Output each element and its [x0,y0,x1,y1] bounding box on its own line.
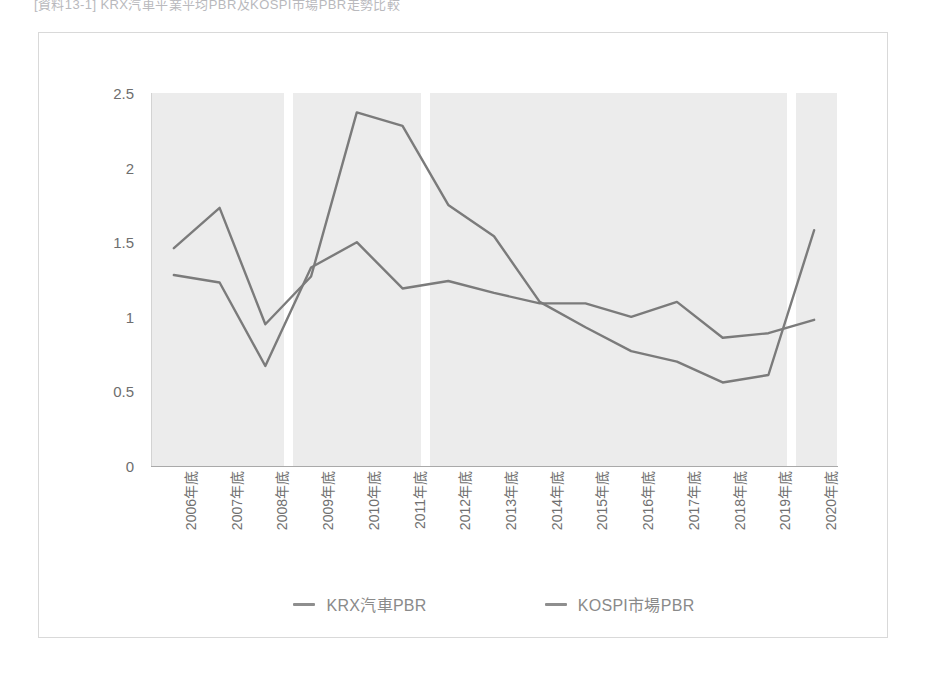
y-axis-tick-label: 0.5 [30,383,143,400]
series-line [174,112,814,382]
figure-caption: [資料13-1] KRX汽車平業平均PBR及KOSPI市場PBR走勢比較 [34,0,894,12]
x-axis-tick-label: 2008年底 [271,471,291,530]
legend-item[interactable]: KOSPI市場PBR [545,592,695,616]
x-axis-tick-label: 2013年底 [500,471,520,530]
x-axis-tick-label: 2018年底 [729,471,749,530]
figure-frame: 00.511.522.5 2006年底2007年底2008年底2009年底201… [38,32,888,638]
x-axis-tick-label: 2014年底 [546,471,566,530]
x-axis-tick-label: 2015年底 [591,471,611,530]
chart-legend: KRX汽車PBRKOSPI市場PBR [151,589,837,619]
x-axis-tick-label: 2019年底 [774,471,794,530]
x-axis-tick-label: 2017年底 [683,471,703,530]
series-lines [151,93,837,466]
x-axis-tick-label: 2011年底 [409,471,429,529]
y-axis-tick-label: 1 [30,308,143,325]
x-axis-tick-label: 2016年底 [637,471,657,530]
y-axis-tick-label: 2 [30,159,143,176]
series-line [174,242,814,366]
y-axis-tick-label: 0 [30,458,143,475]
y-axis-tick-label: 1.5 [30,234,143,251]
x-axis-tick-label: 2012年底 [454,471,474,530]
x-axis-tick-label: 2009年底 [317,471,337,530]
y-axis-tick-labels: 00.511.522.5 [39,33,143,533]
legend-label: KOSPI市場PBR [578,592,695,616]
pbr-trend-line-chart: 00.511.522.5 2006年底2007年底2008年底2009年底201… [39,33,889,639]
legend-label: KRX汽車PBR [326,592,426,616]
x-axis-tick-label: 2006年底 [180,471,200,530]
legend-item[interactable]: KRX汽車PBR [293,592,426,616]
x-axis-tick-label: 2010年底 [363,471,383,530]
legend-line-swatch [293,603,315,606]
y-axis-tick-label: 2.5 [30,85,143,102]
x-axis-line [151,466,838,467]
x-axis-tick-label: 2007年底 [226,471,246,530]
x-axis-tick-label: 2020年底 [820,471,840,530]
legend-line-swatch [545,603,567,606]
x-axis-tick-labels: 2006年底2007年底2008年底2009年底2010年底2011年底2012… [151,471,837,591]
